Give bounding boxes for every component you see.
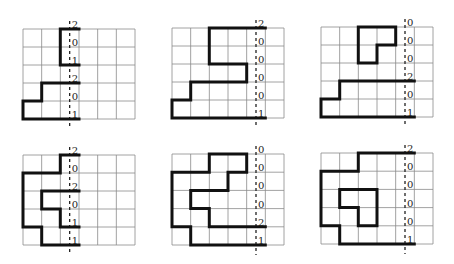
row-label: 0 [258,199,264,210]
grid-lines [172,154,284,245]
grid-panel-3: 000201 [321,17,433,127]
grid-panel-4: 202011 [23,145,135,255]
row-label: 1 [407,234,413,245]
grid-lines [23,29,135,119]
row-label: 0 [407,161,413,172]
row-label: 0 [407,179,413,190]
row-label: 0 [258,180,264,191]
row-label: 2 [72,145,78,156]
row-label: 0 [407,198,413,209]
row-label: 0 [72,91,78,102]
grid-panel-1: 201201 [23,19,135,129]
row-label: 2 [72,181,78,192]
row-label: 0 [407,35,413,46]
row-label: 1 [72,217,78,228]
figure-canvas: 201201200001000201202011000021200001 [0,0,454,264]
row-label: 0 [258,144,264,155]
row-label: 2 [258,217,264,228]
grid-lines [23,155,135,245]
boundary-path [23,155,79,245]
boundary-path [321,153,414,244]
grid-lines [172,28,284,118]
row-label: 1 [72,109,78,120]
row-label: 0 [407,216,413,227]
row-label: 0 [258,54,264,65]
row-label: 0 [258,72,264,83]
grid-panel-6: 200001 [321,143,433,254]
row-label: 1 [258,235,264,246]
row-label: 0 [407,53,413,64]
row-label: 1 [407,107,413,118]
grid-panel-5: 000021 [172,144,284,255]
row-label: 0 [407,17,413,28]
boundary-path [172,154,265,245]
grid-panel-2: 200001 [172,18,284,128]
row-label: 2 [258,18,264,29]
row-label: 0 [72,163,78,174]
row-label: 1 [258,108,264,119]
boundary-path [172,28,265,118]
row-label: 2 [407,71,413,82]
row-label: 0 [258,90,264,101]
row-label: 0 [258,162,264,173]
row-label: 0 [258,36,264,47]
row-label: 0 [407,89,413,100]
row-label: 1 [72,55,78,66]
row-label: 2 [72,73,78,84]
row-label: 1 [72,235,78,246]
row-label: 2 [72,19,78,30]
row-label: 2 [407,143,413,154]
row-label: 0 [72,37,78,48]
row-label: 0 [72,199,78,210]
grid-lines [321,27,433,117]
